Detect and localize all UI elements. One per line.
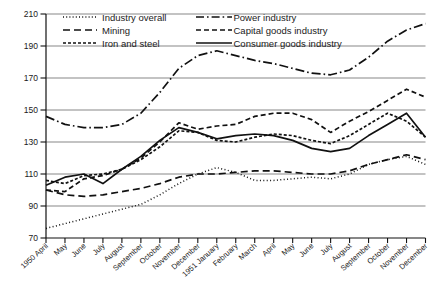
y-tick-label: 90 [29,201,39,211]
legend-label: Capital goods industry [234,25,328,36]
y-tick-label: 210 [24,9,38,19]
legend-label: Mining [102,25,130,36]
y-tick-label: 150 [24,105,38,115]
chart-canvas: 7090110130150170190210 1950 AprilMayJune… [0,0,434,285]
y-tick-label: 170 [24,73,38,83]
legend-label: Consumer goods industry [234,38,342,49]
y-tick-label: 190 [24,41,38,51]
legend-label: Industry overall [102,12,166,23]
x-axis-group [46,238,426,243]
legend-label: Iron and steel [102,38,160,49]
y-tick-label: 130 [24,137,38,147]
y-tick-label: 110 [24,169,38,179]
legend-label: Power industry [234,12,297,23]
y-tick-label: 70 [29,233,39,243]
line-chart: 7090110130150170190210 1950 AprilMayJune… [0,0,434,285]
